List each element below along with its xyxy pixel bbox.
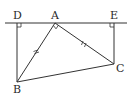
label-a: A [50, 9, 60, 22]
label-e: E [110, 9, 118, 22]
right-angle-mark-a [53, 25, 58, 29]
label-b: B [13, 83, 21, 96]
segment-bc [17, 64, 114, 82]
right-angle-mark-e [110, 23, 114, 27]
segment-ac [55, 23, 114, 64]
segment-ab [17, 23, 55, 82]
label-d: D [13, 9, 22, 22]
label-c: C [116, 62, 124, 75]
right-angle-mark-d [17, 23, 21, 27]
geometry-figure: D A E B C [0, 0, 129, 96]
figure-canvas: D A E B C [0, 0, 129, 96]
